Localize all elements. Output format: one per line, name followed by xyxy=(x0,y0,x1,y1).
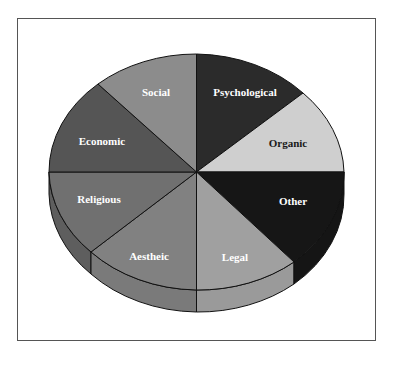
label-aestheic: Aestheic xyxy=(129,250,169,262)
label-other: Other xyxy=(279,195,307,207)
label-legal: Legal xyxy=(222,251,248,263)
label-economic: Economic xyxy=(79,135,126,147)
label-religious: Religious xyxy=(77,193,121,205)
label-social: Social xyxy=(142,86,170,98)
label-psychological: Psychological xyxy=(213,86,277,98)
pie-chart: Social Psychological Economic Organic Re… xyxy=(0,0,394,365)
label-organic: Organic xyxy=(269,137,308,149)
